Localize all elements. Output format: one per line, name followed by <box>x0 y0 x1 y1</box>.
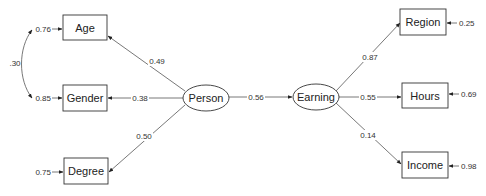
node-age: Age <box>63 15 107 40</box>
covariance-age-gender <box>22 30 33 98</box>
node-earning: Earning <box>293 84 339 110</box>
error-age: 0.76 <box>35 25 51 34</box>
coef-person-degree: 0.50 <box>136 132 152 141</box>
node-age-label: Age <box>75 22 95 34</box>
node-person-label: Person <box>189 92 224 104</box>
node-income-label: Income <box>407 159 443 171</box>
coef-earning-income: 0.14 <box>360 131 376 140</box>
path-person-age <box>108 36 185 91</box>
coef-earning-region: 0.87 <box>362 53 378 62</box>
node-degree: Degree <box>64 158 108 184</box>
error-region: 0.25 <box>459 19 475 28</box>
node-hours-label: Hours <box>410 90 440 102</box>
coef-person-age: 0.49 <box>149 57 165 66</box>
error-income: 0.98 <box>461 162 477 171</box>
node-person: Person <box>183 85 229 111</box>
error-gender: 0.85 <box>35 94 51 103</box>
node-region-label: Region <box>406 16 441 28</box>
error-hours: 0.69 <box>461 90 477 99</box>
node-region: Region <box>400 9 446 35</box>
coef-person-earning: 0.56 <box>248 93 264 102</box>
node-earning-label: Earning <box>297 91 335 103</box>
error-degree: 0.75 <box>35 168 51 177</box>
coef-earning-hours: 0.55 <box>360 93 376 102</box>
covariance-age-gender-label: .30 <box>9 59 21 68</box>
node-degree-label: Degree <box>68 165 104 177</box>
coef-person-gender: 0.38 <box>132 94 148 103</box>
node-gender-label: Gender <box>67 92 104 104</box>
node-income: Income <box>402 152 448 178</box>
node-gender: Gender <box>63 85 107 111</box>
path-diagram: Age Gender Degree Region Hours Income Pe… <box>0 0 486 196</box>
node-hours: Hours <box>402 83 448 108</box>
